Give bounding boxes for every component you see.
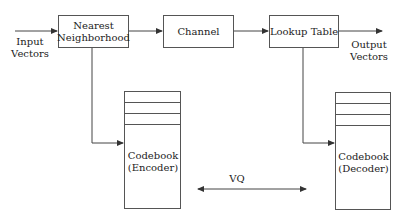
lookup-to-decoder-arrow (303, 47, 334, 143)
nearest-line2: Neighborhood (57, 32, 130, 44)
channel-box: Channel (163, 15, 234, 48)
input-label-line1: Input (10, 36, 50, 48)
output-label-line1: Output (348, 39, 390, 51)
vq-label: VQ (222, 173, 252, 185)
output-vectors-label: Output Vectors (348, 39, 390, 63)
output-label-line2: Vectors (348, 51, 390, 63)
vq-diagram: Input Vectors Nearest Neighborhood Chann… (0, 0, 407, 221)
lookup-table-label: Lookup Table (270, 26, 338, 38)
encoder-codebook-label: Codebook (Encoder) (125, 150, 181, 174)
input-label-line2: Vectors (10, 48, 50, 60)
nearest-neighborhood-box: Nearest Neighborhood (58, 15, 129, 48)
encoder-line2: (Encoder) (125, 162, 181, 174)
decoder-codebook-label: Codebook (Decoder) (336, 151, 391, 175)
lookup-table-box: Lookup Table (269, 15, 339, 48)
decoder-line2: (Decoder) (336, 163, 391, 175)
nearest-line1: Nearest (57, 20, 130, 32)
channel-label: Channel (177, 26, 219, 38)
input-vectors-label: Input Vectors (10, 36, 50, 60)
nearest-to-encoder-arrow (92, 47, 123, 143)
encoder-line1: Codebook (125, 150, 181, 162)
decoder-line1: Codebook (336, 151, 391, 163)
nearest-neighborhood-label: Nearest Neighborhood (57, 20, 130, 44)
